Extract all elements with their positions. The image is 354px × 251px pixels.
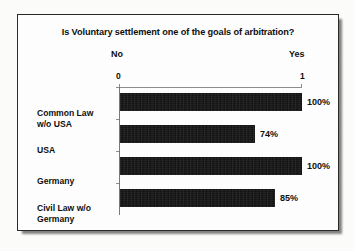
row-tick [116, 151, 119, 152]
axis-tick-label-1: 1 [300, 71, 305, 81]
row-tick [116, 87, 119, 88]
category-label-common-law: Common Law w/o USA [37, 108, 117, 129]
row-tick [116, 119, 119, 120]
table-row: 100% [119, 151, 302, 183]
bar-value-civil-law: 85% [280, 193, 298, 203]
table-row: 74% [119, 119, 302, 151]
category-label-line1: USA [37, 145, 117, 156]
table-row: 85% [119, 183, 302, 215]
bar-common-law [120, 93, 302, 111]
bar-germany [120, 157, 302, 175]
bar-value-common-law: 100% [307, 97, 330, 107]
plot-area: 100% 74% 100% 85% [119, 87, 302, 215]
category-label-germany: Germany [37, 176, 117, 187]
bar-usa [120, 125, 255, 143]
category-label-line1: Germany [37, 176, 117, 187]
axis-tick-label-0: 0 [116, 71, 121, 81]
axis-pole-label-yes: Yes [289, 49, 305, 59]
axis-pole-label-no: No [111, 49, 123, 59]
table-row: 100% [119, 87, 302, 119]
category-label-line2: Germany [37, 214, 117, 225]
category-label-civil-law: Civil Law w/o Germany [37, 203, 117, 224]
category-label-usa: USA [37, 145, 117, 156]
row-tick [116, 183, 119, 184]
category-label-line1: Civil Law w/o [37, 203, 117, 214]
chart-title: Is Voluntary settlement one of the goals… [18, 27, 338, 37]
bar-value-germany: 100% [307, 161, 330, 171]
category-label-line1: Common Law [37, 108, 117, 119]
category-label-line2: w/o USA [37, 119, 117, 130]
bar-civil-law [120, 189, 275, 207]
chart-figure: Is Voluntary settlement one of the goals… [17, 14, 339, 231]
bar-value-usa: 74% [260, 129, 278, 139]
